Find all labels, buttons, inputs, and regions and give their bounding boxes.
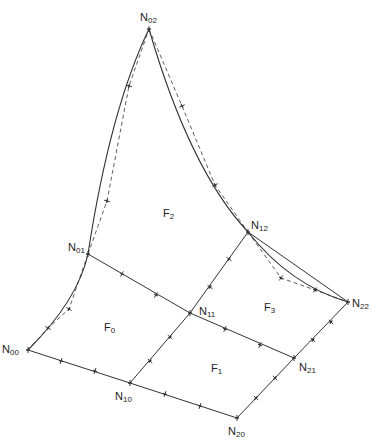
node-label-N01: N01 (68, 242, 85, 255)
edge-N20-N21 (237, 358, 294, 418)
tick-mark (128, 84, 129, 88)
face-label-F0: F0 (104, 322, 115, 335)
edge-N11-N21 (190, 313, 294, 358)
tick-mark (47, 326, 49, 329)
tick-mark (68, 307, 70, 310)
edge-N01-N11 (88, 254, 190, 313)
node-label-N00: N00 (2, 344, 19, 357)
tick-mark (59, 360, 63, 361)
tick-mark (258, 344, 262, 346)
face-label-F2: F2 (163, 208, 174, 221)
curved-edge-N01-N02 (88, 29, 149, 254)
tick-mark (181, 104, 183, 108)
node-label-N02: N02 (140, 12, 157, 25)
edge-N00-N10 (28, 350, 130, 383)
mesh-diagram (0, 0, 380, 447)
tick-mark (120, 273, 123, 275)
edge-N21-N22 (294, 302, 348, 358)
edge-N12-N22 (248, 232, 348, 302)
curved-boundary-edges (28, 29, 348, 350)
straight-mesh-edges (28, 232, 348, 418)
node-label-N12: N12 (251, 220, 268, 233)
face-label-F1: F1 (211, 363, 222, 376)
curved-edge-N00-N01 (28, 254, 88, 350)
edge-N10-N20 (130, 383, 237, 418)
dashed-edge-N00-N01 (28, 254, 88, 350)
dashed-polyline-edges (28, 29, 348, 350)
dashed-edge-N02-N12 (149, 29, 248, 232)
edge-N11-N12 (190, 232, 248, 313)
node-label-N20: N20 (228, 426, 245, 439)
node-label-N11: N11 (199, 306, 215, 319)
edge-N10-N11 (130, 313, 190, 383)
dashed-edge-N01-N02 (88, 29, 149, 254)
node-label-N22: N22 (352, 298, 369, 311)
face-label-F3: F3 (264, 302, 275, 315)
node-label-N21: N21 (299, 362, 316, 375)
node-label-N10: N10 (115, 391, 132, 404)
curved-edge-N02-N12 (149, 29, 248, 232)
tick-mark (106, 199, 107, 203)
tick-mark (198, 405, 202, 406)
